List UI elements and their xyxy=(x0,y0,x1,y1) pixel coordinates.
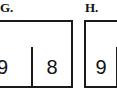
panel-g-bottom-row: 9 8 xyxy=(0,47,71,86)
panel-h-bottom-row: 9 xyxy=(86,47,117,86)
panel-g-table: 9 8 xyxy=(0,20,73,88)
panel-h-table: 9 xyxy=(84,20,117,88)
panel-g-cell-2: 8 xyxy=(31,47,71,86)
panel-h-cell-2 xyxy=(116,47,117,86)
panel-g-cell-1: 9 xyxy=(0,47,31,86)
panel-h-label: H. xyxy=(85,1,98,14)
panel-g-label: G. xyxy=(0,1,13,14)
panel-g-top-cell xyxy=(0,22,71,49)
panel-h-cell-1: 9 xyxy=(86,47,116,86)
panel-h-top-cell xyxy=(86,22,117,49)
